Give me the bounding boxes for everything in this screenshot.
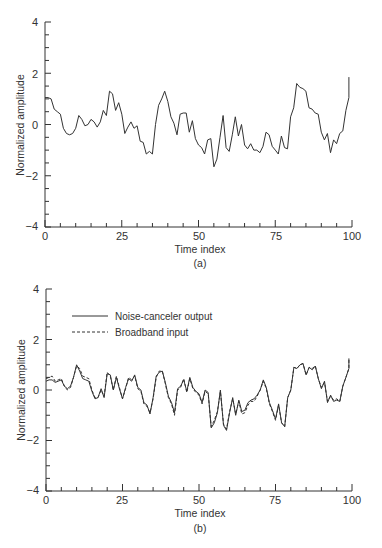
chart-a-y-tick-label: 2: [32, 68, 38, 80]
chart-b-y-tick-label: 0: [33, 384, 39, 396]
chart-a-x-tick-label: 25: [116, 230, 128, 242]
chart-b: 4 2 0 −2 −4 0 25 50 75 100 Time index No…: [15, 283, 361, 534]
chart-b-legend: Noise-canceler output Broadband input: [72, 311, 212, 338]
figure: 4 2 0 −2 −4 0 25 50 75 100 Time index No…: [0, 0, 382, 548]
chart-b-x-tick-label: 100: [343, 494, 361, 506]
chart-a-y-axis-title: Normalized amplitude: [14, 74, 26, 176]
chart-a-x-tick-label: 100: [343, 230, 361, 242]
chart-b-y-tick-label: −4: [26, 484, 39, 496]
chart-b-panel-label: (b): [194, 522, 207, 534]
chart-b-x-ticks: [46, 484, 352, 491]
chart-a-y-tick-label: 4: [32, 16, 38, 28]
chart-b-y-tick-label: −2: [26, 434, 39, 446]
chart-b-broadband-input-line: [46, 358, 349, 429]
chart-a: 4 2 0 −2 −4 0 25 50 75 100 Time index No…: [14, 16, 361, 269]
legend-label-input: Broadband input: [115, 327, 189, 338]
chart-b-y-tick-label: 2: [33, 334, 39, 346]
chart-a-x-axis-title: Time index: [175, 243, 227, 255]
chart-a-x-tick-label: 50: [193, 230, 205, 242]
chart-a-panel-label: (a): [194, 257, 207, 269]
chart-a-signal-line: [45, 77, 349, 167]
chart-b-y-axis-title: Normalized amplitude: [15, 339, 27, 441]
chart-b-x-tick-label: 25: [116, 494, 128, 506]
chart-b-x-tick-label: 0: [43, 494, 49, 506]
chart-b-x-tick-label: 75: [269, 494, 281, 506]
legend-label-output: Noise-canceler output: [115, 311, 212, 322]
chart-a-y-tick-label: −4: [25, 220, 38, 232]
chart-b-y-tick-label: 4: [33, 283, 39, 295]
chart-b-x-axis-title: Time index: [175, 507, 227, 519]
chart-a-x-ticks: [45, 220, 352, 227]
chart-a-x-tick-label: 75: [270, 230, 282, 242]
chart-a-y-tick-label: 0: [32, 119, 38, 131]
chart-b-x-tick-label: 50: [193, 494, 205, 506]
chart-b-y-ticks: [46, 289, 52, 491]
chart-a-x-tick-label: 0: [42, 230, 48, 242]
chart-a-y-ticks: [45, 22, 51, 227]
chart-a-y-tick-label: −2: [25, 170, 38, 182]
